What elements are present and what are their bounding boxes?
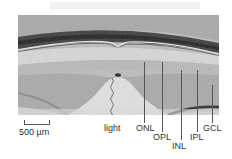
ipl-leader-line — [197, 70, 198, 132]
gcl-leader-line — [212, 85, 213, 123]
label-onl: ONL — [136, 124, 155, 133]
label-opl: OPL — [153, 133, 171, 142]
label-inl: INL — [172, 142, 186, 151]
scale-bar — [24, 120, 50, 125]
opl-leader-line — [162, 62, 163, 132]
label-light: light — [104, 124, 121, 133]
retina-micrograph — [18, 15, 219, 115]
label-ipl: IPL — [190, 133, 204, 142]
cropped-caption-remnant — [50, 2, 200, 10]
retina-layers-illustration — [18, 15, 219, 115]
scale-bar-label: 500 µm — [19, 128, 49, 137]
onl-leader-line — [144, 62, 145, 123]
label-gcl: GCL — [203, 124, 222, 133]
inl-leader-line — [181, 70, 182, 140]
